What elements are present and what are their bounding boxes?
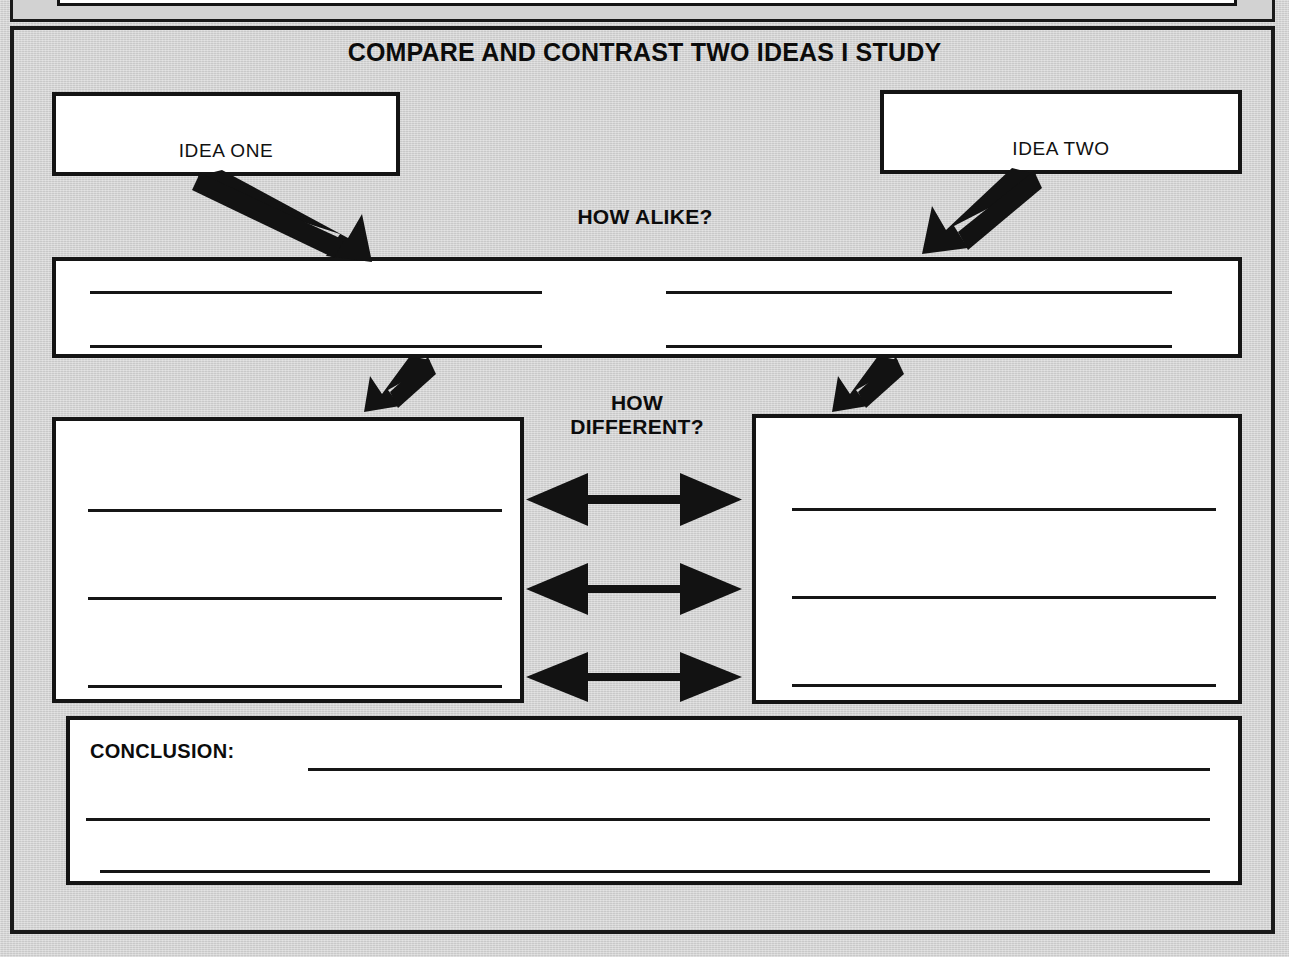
conclusion-box[interactable]: CONCLUSION:	[66, 716, 1242, 885]
how-different-caption: HOW DIFFERENT?	[525, 391, 749, 439]
difference-left-line-3	[88, 685, 502, 688]
conclusion-line-2	[86, 818, 1210, 821]
difference-right-line-2	[792, 596, 1216, 599]
page-title: COMPARE AND CONTRAST TWO IDEAS I STUDY	[0, 38, 1289, 67]
conclusion-line-3	[100, 870, 1210, 873]
idea-two-box[interactable]: IDEA TWO	[880, 90, 1242, 174]
alike-line-row2-right	[666, 345, 1172, 348]
difference-left-line-1	[88, 509, 502, 512]
alike-line-row2-left	[90, 345, 542, 348]
difference-left-line-2	[88, 597, 502, 600]
alike-line-row1-left	[90, 291, 542, 294]
idea-one-box[interactable]: IDEA ONE	[52, 92, 400, 176]
previous-worksheet-field	[57, 0, 1237, 6]
idea-two-label: IDEA TWO	[884, 138, 1238, 160]
difference-right-line-3	[792, 684, 1216, 687]
difference-right-box[interactable]	[752, 414, 1242, 704]
difference-right-line-1	[792, 508, 1216, 511]
conclusion-line-1	[308, 768, 1210, 771]
difference-left-box[interactable]	[52, 417, 524, 703]
how-alike-caption: HOW ALIKE?	[450, 205, 840, 229]
worksheet-page: COMPARE AND CONTRAST TWO IDEAS I STUDY I…	[0, 0, 1289, 957]
alike-line-row1-right	[666, 291, 1172, 294]
conclusion-label: CONCLUSION:	[90, 740, 234, 763]
idea-one-label: IDEA ONE	[56, 140, 396, 162]
how-alike-box[interactable]	[52, 257, 1242, 358]
previous-worksheet-panel	[10, 0, 1275, 22]
